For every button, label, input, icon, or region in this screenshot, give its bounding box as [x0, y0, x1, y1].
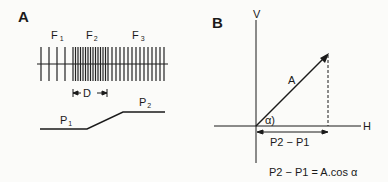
projection-label: P2 − P1	[270, 136, 309, 148]
figure-canvas: A F1 F2 F3	[0, 0, 388, 182]
region-label-f2: F2	[86, 29, 98, 42]
vector-label: A	[288, 74, 296, 86]
panel-b: B V H A α) P2 − P1 P2 − P1 = A.cos α	[212, 8, 371, 178]
level-label-p2: P2	[139, 96, 151, 109]
region-label-f3: F3	[132, 29, 145, 42]
h-axis-label: H	[363, 120, 371, 132]
region-label-f1: F1	[51, 29, 64, 42]
panel-a-label: A	[18, 8, 29, 25]
angle-label: α)	[265, 114, 275, 126]
distance-label: D	[83, 87, 91, 99]
pressure-trace	[40, 112, 165, 129]
panel-a: A F1 F2 F3	[18, 8, 168, 129]
projection-arrow	[257, 130, 328, 134]
level-label-p1: P1	[60, 114, 72, 127]
equation: P2 − P1 = A.cos α	[269, 166, 358, 178]
panel-b-label: B	[212, 14, 223, 31]
v-axis-label: V	[253, 8, 261, 20]
